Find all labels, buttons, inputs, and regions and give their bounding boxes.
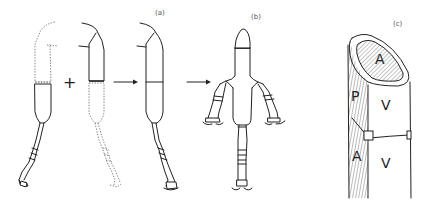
limb-2-dotted-distal — [79, 23, 121, 187]
plus-icon: + — [63, 73, 76, 92]
label-anterior-lower: A — [352, 148, 362, 164]
label-posterior-upper: P — [351, 88, 359, 104]
arrow-right-icon — [187, 80, 211, 85]
label-ventral-lower: V — [381, 155, 391, 171]
limb-1-dotted-proximal — [19, 22, 58, 187]
label-ventral-upper: V — [381, 97, 391, 113]
panel-b-supernumerary-structure — [203, 29, 285, 190]
limb-3-combined — [137, 23, 178, 190]
limb-grafting-diagram: (a) (b) (c) + — [0, 0, 429, 205]
label-anterior-cut-face: A — [375, 51, 385, 67]
diagram-drawing: + — [0, 0, 429, 205]
arrow-right-icon — [114, 80, 138, 85]
